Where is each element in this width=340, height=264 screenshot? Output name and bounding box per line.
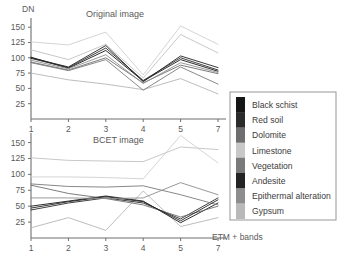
legend-swatch [236,97,245,113]
legend-swatch [236,203,245,219]
series-line [31,183,218,199]
x-tick-label: 7 [216,124,221,134]
x-tick-label: 4 [141,243,146,253]
x-tick-label: 7 [216,243,221,253]
legend-swatch [236,143,245,159]
legend-label: Epithermal alteration [252,191,331,201]
y-ticks-bottom: 255075100125150 [11,138,31,228]
x-tick-label: 2 [66,243,71,253]
legend-label: Gypsum [252,206,284,216]
panel-title-bottom: BCET image [93,135,144,145]
y-tick-label: 50 [16,201,26,211]
legend-swatch [236,188,245,204]
y-tick-label: 75 [16,185,26,195]
series-group-top [31,26,218,94]
panel-bcet-image: BCET image 255075100125150 123457 ETM + … [11,133,263,253]
legend: Black schistRed soilDolomiteLimestoneVeg… [230,92,336,220]
series-line [31,147,218,162]
x-tick-label: 4 [141,124,146,134]
panel-original-image: DN Original image 255075100125150 123457 [11,4,226,134]
y-tick-label: 100 [11,169,25,179]
legend-swatch [236,127,245,143]
x-axis-title: ETM + bands [212,232,263,242]
x-ticks-bottom: 123457 [29,238,221,253]
x-tick-label: 3 [103,124,108,134]
x-tick-label: 2 [66,124,71,134]
legend-label: Black schist [252,100,298,110]
panel-title-top: Original image [86,9,144,19]
y-tick-label: 100 [11,53,25,63]
y-tick-label: 25 [16,99,26,109]
y-tick-label: 150 [11,138,25,148]
multi-panel-line-chart: DN Original image 255075100125150 123457… [0,0,340,264]
y-tick-label: 50 [16,83,26,93]
y-tick-label: 150 [11,22,25,32]
x-tick-label: 1 [29,124,34,134]
x-tick-label: 5 [178,243,183,253]
legend-label: Vegetation [252,161,293,171]
legend-label: Red soil [252,115,283,125]
y-tick-label: 75 [16,68,26,78]
series-line [31,73,218,94]
x-tick-label: 5 [178,124,183,134]
x-tick-label: 1 [29,243,34,253]
legend-swatch [236,112,245,128]
legend-label: Andesite [252,176,286,186]
legend-swatch [236,158,245,174]
series-line [31,46,218,82]
figure-root: DN Original image 255075100125150 123457… [0,0,340,264]
legend-label: Limestone [252,146,292,156]
y-tick-label: 25 [16,217,26,227]
x-ticks-top: 123457 [29,119,221,134]
y-tick-label: 125 [11,153,25,163]
series-group-bottom [31,136,218,231]
legend-label: Dolomite [252,130,286,140]
x-tick-label: 3 [103,243,108,253]
series-line [31,185,218,217]
legend-swatch [236,173,245,189]
y-ticks-top: 255075100125150 [11,22,31,109]
y-axis-title-top: DN [22,4,34,14]
y-tick-label: 125 [11,37,25,47]
